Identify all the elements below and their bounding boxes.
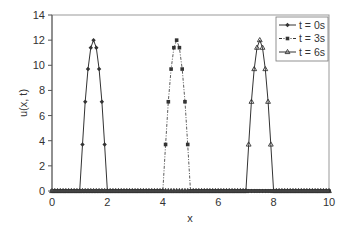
square-marker	[175, 38, 179, 42]
diamond-marker	[100, 100, 104, 104]
diamond-marker	[97, 67, 101, 71]
series-1	[50, 38, 331, 192]
square-marker	[286, 37, 290, 41]
square-marker	[172, 46, 176, 50]
legend-label: t = 0s	[299, 19, 325, 31]
series-line	[52, 40, 329, 191]
series-line	[52, 40, 329, 191]
x-axis-title: x	[187, 212, 193, 224]
square-marker	[169, 67, 173, 71]
x-tick-label: 4	[160, 196, 166, 208]
y-tick-label: 4	[39, 135, 45, 147]
y-tick-label: 0	[39, 185, 45, 197]
square-marker	[183, 100, 187, 104]
diamond-marker	[102, 142, 106, 146]
diamond-marker	[94, 45, 98, 49]
legend-label: t = 6s	[299, 46, 325, 58]
legend-label: t = 3s	[299, 32, 325, 44]
square-marker	[164, 143, 168, 147]
square-marker	[167, 100, 171, 104]
x-tick-label: 8	[271, 196, 277, 208]
diamond-marker	[80, 142, 84, 146]
series-line	[52, 40, 329, 191]
y-tick-label: 10	[33, 59, 45, 71]
y-tick-label: 8	[39, 84, 45, 96]
y-tick-label: 12	[33, 34, 45, 46]
diamond-marker	[89, 45, 93, 49]
square-marker	[178, 46, 182, 50]
legend: t = 0st = 3st = 6s	[276, 17, 328, 61]
chart: 024681012140246810 x u(x, t) t = 0st = 3…	[0, 0, 349, 230]
y-axis-title: u(x, t)	[17, 89, 29, 117]
y-tick-label: 2	[39, 160, 45, 172]
x-tick-label: 10	[323, 196, 335, 208]
diamond-marker	[83, 100, 87, 104]
diamond-marker	[91, 38, 95, 42]
square-marker	[186, 143, 190, 147]
x-tick-label: 0	[49, 196, 55, 208]
x-tick-label: 6	[215, 196, 221, 208]
square-marker	[180, 67, 184, 71]
y-tick-label: 6	[39, 110, 45, 122]
x-tick-label: 2	[104, 196, 110, 208]
diamond-marker	[86, 67, 90, 71]
y-tick-label: 14	[33, 9, 45, 21]
